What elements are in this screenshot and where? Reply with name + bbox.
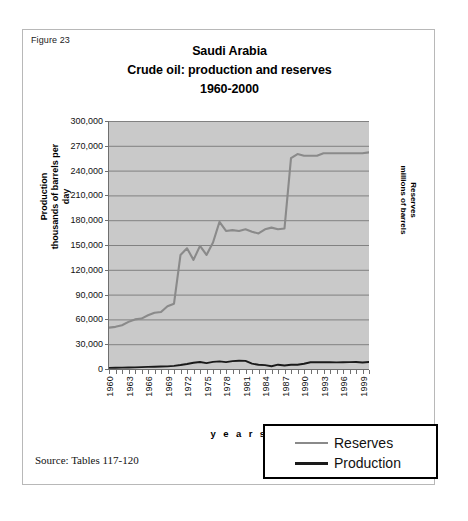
source-note: Source: Tables 117-120 — [35, 454, 139, 466]
chart-title-line-2: Crude oil: production and reserves — [23, 61, 436, 80]
series-line-reserves — [109, 152, 369, 327]
x-axis-tick-label: 1966 — [144, 376, 154, 397]
figure-frame: Figure 23 Saudi Arabia Crude oil: produc… — [22, 29, 435, 485]
series-lines — [109, 121, 369, 371]
y-axis-tick — [105, 245, 109, 246]
chart-title: Saudi Arabia Crude oil: production and r… — [23, 42, 436, 99]
x-axis-tick — [324, 370, 325, 374]
x-axis-tick — [311, 370, 312, 374]
y-axis-tick-label: 180,000 — [70, 215, 103, 225]
secondary-y-axis-title-line-2: millions of barrels — [398, 140, 408, 260]
x-axis-tick — [265, 370, 266, 374]
x-axis-tick-label: 1996 — [339, 376, 349, 397]
x-axis-tick — [116, 370, 117, 374]
chart-title-line-3: 1960-2000 — [23, 80, 436, 99]
x-axis-tick — [330, 370, 331, 374]
plot-wrapper: 300,000270,000240,000210,000180,000150,0… — [109, 121, 369, 369]
x-axis-tick — [194, 370, 195, 374]
x-axis-tick — [304, 370, 305, 374]
x-axis-tick — [363, 370, 364, 374]
x-axis-tick — [142, 370, 143, 374]
x-axis-tick — [187, 370, 188, 374]
y-axis-title: Production thousands of barrels per day — [39, 137, 72, 257]
x-axis-tick — [122, 370, 123, 374]
x-axis-tick — [233, 370, 234, 374]
y-axis-tick-label: 60,000 — [75, 314, 103, 324]
chart-title-line-1: Saudi Arabia — [23, 42, 436, 61]
y-axis-tick — [105, 295, 109, 296]
x-axis-tick-label: 1987 — [281, 376, 291, 397]
x-axis-tick — [220, 370, 221, 374]
x-axis-tick — [291, 370, 292, 374]
y-axis-tick — [105, 121, 109, 122]
legend-label-production: Production — [334, 456, 401, 470]
y-axis-tick-label: 210,000 — [70, 190, 103, 200]
chart-legend: Reserves Production — [263, 424, 438, 479]
x-axis-tick-label: 1960 — [105, 376, 115, 397]
x-axis-tick — [207, 370, 208, 374]
y-axis-title-line-1: Production — [39, 137, 50, 257]
x-axis-tick — [200, 370, 201, 374]
x-axis-tick-label: 1978 — [222, 376, 232, 397]
y-axis-tick-label: 30,000 — [75, 339, 103, 349]
x-axis-tick-label: 1969 — [164, 376, 174, 397]
x-axis-tick — [174, 370, 175, 374]
x-axis-tick — [343, 370, 344, 374]
legend-item-production: Production — [265, 453, 436, 473]
x-axis-tick-label: 1972 — [183, 376, 193, 397]
legend-swatch-production — [295, 462, 328, 465]
y-axis-tick — [105, 220, 109, 221]
y-axis-tick-label: 150,000 — [70, 240, 103, 250]
y-axis-tick — [105, 146, 109, 147]
x-axis-tick — [181, 370, 182, 374]
x-axis-tick — [298, 370, 299, 374]
x-axis-tick-label: 1981 — [242, 376, 252, 397]
x-axis-tick — [337, 370, 338, 374]
secondary-y-axis-title: Reserves millions of barrels — [398, 140, 418, 260]
series-line-production — [109, 361, 369, 368]
x-axis-tick — [272, 370, 273, 374]
x-axis-tick-label: 1984 — [261, 376, 271, 397]
x-axis-tick — [213, 370, 214, 374]
x-axis-tick — [239, 370, 240, 374]
x-axis-tick — [278, 370, 279, 374]
x-axis-tick — [285, 370, 286, 374]
x-axis-tick — [148, 370, 149, 374]
x-axis-tick — [109, 370, 110, 374]
y-axis-tick-label: 120,000 — [70, 265, 103, 275]
x-axis-tick — [161, 370, 162, 374]
x-axis-tick — [246, 370, 247, 374]
x-axis-tick — [168, 370, 169, 374]
x-axis-tick — [155, 370, 156, 374]
y-axis-tick — [105, 171, 109, 172]
y-axis-tick-label: 270,000 — [70, 141, 103, 151]
x-axis-tick-label: 1963 — [125, 376, 135, 397]
x-axis-tick — [226, 370, 227, 374]
y-axis-tick — [105, 319, 109, 320]
y-axis-tick-label: 90,000 — [75, 290, 103, 300]
x-axis-tick — [259, 370, 260, 374]
secondary-y-axis-title-line-1: Reserves — [408, 140, 418, 260]
x-axis-tick — [129, 370, 130, 374]
y-axis-tick-label: 0 — [98, 364, 103, 374]
x-axis-tick-label: 1999 — [359, 376, 369, 397]
x-axis-tick — [135, 370, 136, 374]
legend-item-reserves: Reserves — [265, 433, 436, 453]
y-axis-title-line-2: thousands of barrels per day — [50, 137, 72, 257]
x-axis-tick-label: 1993 — [320, 376, 330, 397]
x-axis-tick — [252, 370, 253, 374]
legend-swatch-reserves — [295, 442, 328, 444]
x-axis-tick — [350, 370, 351, 374]
x-axis-tick-label: 1975 — [203, 376, 213, 397]
y-axis-tick — [105, 270, 109, 271]
legend-label-reserves: Reserves — [334, 436, 393, 450]
y-axis-tick — [105, 195, 109, 196]
y-axis-tick — [105, 344, 109, 345]
y-axis-tick-label: 240,000 — [70, 166, 103, 176]
x-axis-tick — [317, 370, 318, 374]
y-axis-tick-label: 300,000 — [70, 116, 103, 126]
x-axis-tick — [356, 370, 357, 374]
x-axis-tick-label: 1990 — [300, 376, 310, 397]
x-axis-tick — [369, 370, 370, 374]
